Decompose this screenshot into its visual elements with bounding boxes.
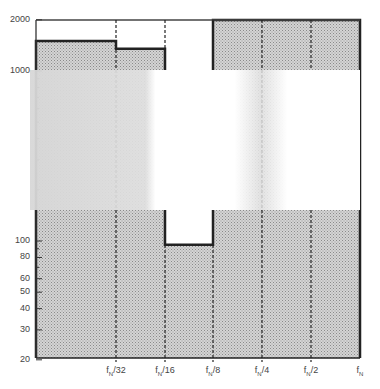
x-tick-label: fN/2 [304, 365, 318, 377]
y-tick-label: 30 [0, 324, 30, 334]
x-tick-label: fN/8 [206, 365, 220, 377]
y-tick-label: 80 [0, 251, 30, 261]
y-tick-label: 50 [0, 286, 30, 296]
bar [165, 245, 213, 358]
y-tick-label: 20 [0, 354, 30, 364]
x-tick-label: fN/4 [255, 365, 269, 377]
y-tick-label: 60 [0, 273, 30, 283]
scan-artifact-band [30, 70, 360, 210]
y-tick-label: 100 [0, 235, 30, 245]
x-tick-label: fN/16 [155, 365, 174, 377]
y-tick-label: 2000 [0, 14, 30, 24]
x-tick-label: fN/32 [106, 365, 125, 377]
y-tick-label: 40 [0, 303, 30, 313]
x-tick-label: fN [357, 365, 364, 377]
y-tick-label: 1000 [0, 65, 30, 75]
